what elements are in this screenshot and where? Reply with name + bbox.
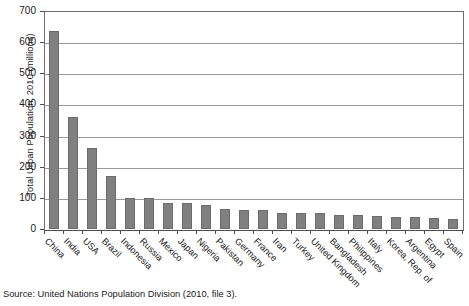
bar xyxy=(87,148,97,229)
bar xyxy=(201,205,211,229)
bar xyxy=(106,176,116,229)
bar xyxy=(68,117,78,229)
bar-series xyxy=(44,11,462,229)
y-tick-label: 300 xyxy=(0,131,36,141)
bar xyxy=(258,210,268,229)
bar xyxy=(239,210,249,229)
x-tick-label: Brazil xyxy=(99,236,122,259)
bar xyxy=(334,215,344,229)
bar xyxy=(372,216,382,229)
bar xyxy=(429,218,439,229)
y-tick-label: 500 xyxy=(0,68,36,78)
bar xyxy=(163,203,173,229)
bar xyxy=(448,219,458,229)
bar xyxy=(315,213,325,229)
x-tick-label: USA xyxy=(80,236,100,256)
y-tick-label: 600 xyxy=(0,37,36,47)
bar xyxy=(296,213,306,229)
bar xyxy=(125,198,135,229)
bar xyxy=(220,209,230,229)
chart-figure: Total Urban Population, 2010 (millions) … xyxy=(0,0,469,306)
bar xyxy=(353,215,363,229)
bar xyxy=(277,213,287,229)
y-tick-label: 0 xyxy=(0,224,36,234)
source-note: Source: United Nations Population Divisi… xyxy=(3,288,237,300)
bar xyxy=(144,198,154,229)
y-tick-label: 100 xyxy=(0,193,36,203)
y-tick-label: 700 xyxy=(0,6,36,16)
x-tick-label: China xyxy=(42,236,66,260)
x-axis-tick-labels: ChinaIndiaUSABrazilIndonesiaRussiaMexico… xyxy=(44,234,469,296)
y-tick-label: 400 xyxy=(0,99,36,109)
bar xyxy=(410,217,420,229)
bar xyxy=(391,217,401,229)
bar xyxy=(182,203,192,229)
bar xyxy=(49,31,59,229)
x-tick-label: Spain xyxy=(441,236,465,260)
y-tick-label: 200 xyxy=(0,162,36,172)
